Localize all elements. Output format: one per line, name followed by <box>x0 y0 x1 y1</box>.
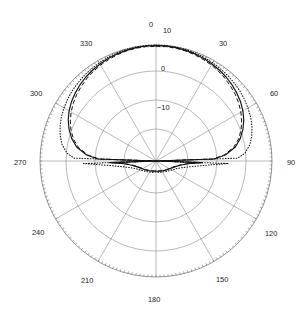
outer-tick <box>223 253 224 255</box>
outer-tick <box>235 78 237 80</box>
outer-tick <box>98 61 99 63</box>
outer-tick <box>43 189 45 190</box>
polar-chart-svg: 0306090120150180210240270300330 100−10 <box>0 0 308 313</box>
outer-tick <box>253 100 255 101</box>
outer-tick <box>62 93 64 94</box>
outer-tick <box>255 103 257 104</box>
outer-tick <box>98 260 99 262</box>
outer-tick <box>258 211 260 212</box>
outer-tick <box>216 258 217 260</box>
outer-tick <box>50 114 52 115</box>
outer-tick <box>65 90 67 91</box>
outer-tick <box>109 265 110 267</box>
outer-tick <box>209 59 210 61</box>
outer-tick <box>262 204 264 205</box>
polar-plot-figure: 0306090120150180210240270300330 100−10 <box>0 0 308 313</box>
outer-tick <box>67 86 69 87</box>
angle-label-30: 30 <box>219 39 227 48</box>
outer-tick <box>256 107 258 108</box>
outer-tick <box>48 204 50 205</box>
outer-tick <box>209 261 210 263</box>
outer-tick <box>73 240 75 242</box>
outer-tick <box>255 218 257 219</box>
outer-tick <box>46 196 48 197</box>
outer-tick <box>232 246 233 248</box>
outer-tick <box>187 270 188 272</box>
outer-tick <box>78 75 79 77</box>
outer-tick <box>78 246 79 248</box>
outer-tick <box>75 78 77 80</box>
angle-label-120: 120 <box>265 229 277 238</box>
outer-tick <box>91 65 92 67</box>
outer-tick <box>47 121 49 122</box>
outer-tick <box>70 83 72 84</box>
outer-tick <box>65 231 67 232</box>
outer-tick <box>263 200 265 201</box>
outer-tick <box>52 211 54 212</box>
outer-tick <box>238 80 240 82</box>
outer-tick <box>88 67 89 69</box>
radial-axis-labels: 100−10 <box>157 26 171 112</box>
outer-tick <box>54 107 56 108</box>
outer-tick <box>202 265 203 267</box>
outer-tick <box>67 234 69 235</box>
outer-tick <box>58 100 60 101</box>
outer-tick <box>128 271 129 273</box>
angle-label-240: 240 <box>32 228 44 237</box>
radial-label-neg10: −10 <box>157 103 170 112</box>
outer-tick <box>52 110 54 111</box>
angle-label-300: 300 <box>30 89 42 98</box>
outer-tick <box>246 231 248 232</box>
outer-tick <box>191 269 192 271</box>
outer-tick <box>250 96 252 97</box>
angle-label-150: 150 <box>216 275 228 284</box>
outer-tick <box>44 129 46 130</box>
outer-tick <box>73 80 75 82</box>
angle-label-270: 270 <box>14 158 26 167</box>
outer-tick <box>88 253 89 255</box>
outer-tick <box>264 196 266 197</box>
outer-tick <box>44 192 46 193</box>
outer-tick <box>124 270 125 272</box>
outer-tick <box>248 228 250 229</box>
outer-tick <box>120 269 121 271</box>
outer-tick <box>58 221 60 222</box>
outer-tick <box>265 129 267 130</box>
outer-tick <box>232 75 233 77</box>
outer-tick <box>56 103 58 104</box>
outer-tick <box>206 263 207 265</box>
outer-tick <box>216 63 217 65</box>
outer-tick <box>195 268 196 270</box>
outer-tick <box>226 70 227 72</box>
angle-label-330: 330 <box>80 39 92 48</box>
angle-label-90: 90 <box>287 158 295 167</box>
outer-tick <box>116 268 117 270</box>
outer-tick <box>220 65 221 67</box>
angle-label-180: 180 <box>148 295 160 304</box>
outer-tick <box>184 271 185 273</box>
outer-tick <box>60 96 62 97</box>
outer-tick <box>229 248 230 250</box>
outer-tick <box>266 189 268 190</box>
outer-tick <box>243 86 245 87</box>
outer-tick <box>85 70 86 72</box>
outer-tick <box>260 114 262 115</box>
outer-tick <box>70 237 72 238</box>
outer-tick <box>95 258 96 260</box>
outer-tick <box>238 240 240 242</box>
outer-tick <box>75 243 77 245</box>
outer-tick <box>264 125 266 126</box>
outer-tick <box>43 133 45 134</box>
outer-tick <box>260 207 262 208</box>
outer-tick <box>223 67 224 69</box>
outer-tick <box>241 237 243 238</box>
outer-tick <box>235 243 237 245</box>
radial-label-10: 10 <box>163 26 171 35</box>
outer-tick <box>248 93 250 94</box>
outer-tick <box>102 261 103 263</box>
outer-tick <box>226 251 227 253</box>
outer-tick <box>46 125 48 126</box>
outer-tick <box>243 234 245 235</box>
outer-tick <box>262 118 264 119</box>
outer-tick <box>246 90 248 91</box>
